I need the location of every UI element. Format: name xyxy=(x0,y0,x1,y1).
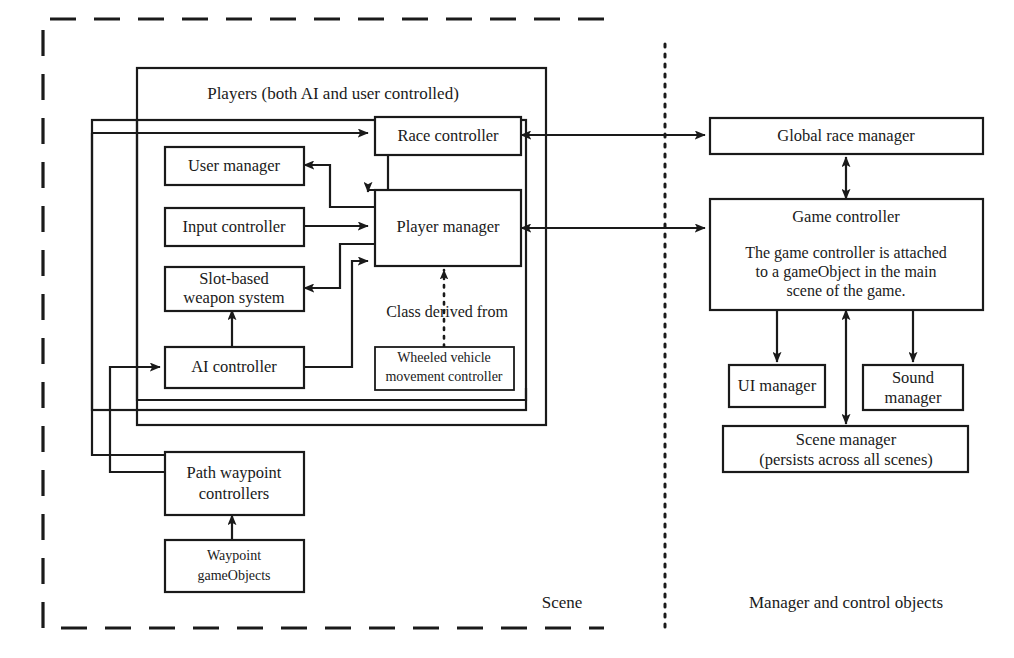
node-player-manager-label: Player manager xyxy=(396,217,500,236)
node-wheeled-vehicle-movement-controller[interactable]: Wheeled vehicle movement controller xyxy=(375,347,514,390)
node-ui-manager-label: UI manager xyxy=(738,376,817,395)
node-waypoint-gameobjects-label-line2: gameObjects xyxy=(197,568,270,583)
node-sound-manager-label-line2: manager xyxy=(885,388,942,407)
architecture-diagram: Race controller User manager Input contr… xyxy=(0,0,1014,658)
node-game-controller-note-line3: scene of the game. xyxy=(786,282,905,300)
node-path-waypoint-controllers[interactable]: Path waypoint controllers xyxy=(165,452,304,515)
node-ui-manager[interactable]: UI manager xyxy=(729,365,825,407)
scene-region-label: Scene xyxy=(542,593,583,612)
node-slot-weapon-label-line2: weapon system xyxy=(183,288,284,307)
edge-player-manager-to-user-manager xyxy=(304,165,375,207)
node-global-race-manager[interactable]: Global race manager xyxy=(710,118,983,154)
node-player-manager[interactable]: Player manager xyxy=(375,190,521,266)
players-group-label: Players (both AI and user controlled) xyxy=(207,84,459,103)
node-input-controller[interactable]: Input controller xyxy=(165,208,304,246)
node-sound-manager[interactable]: Sound manager xyxy=(863,365,963,410)
edge-waypoint-rail-left xyxy=(92,133,165,455)
node-game-controller-note-line2: to a gameObject in the main xyxy=(756,263,937,281)
managers-region-label: Manager and control objects xyxy=(749,593,943,612)
node-waypoint-gameobjects-label-line1: Waypoint xyxy=(207,548,261,563)
node-game-controller-title: Game controller xyxy=(792,207,900,226)
node-race-controller-label: Race controller xyxy=(397,126,499,145)
node-ai-controller[interactable]: AI controller xyxy=(165,347,304,388)
node-input-controller-label: Input controller xyxy=(182,217,286,236)
edge-ai-controller-to-player-manager xyxy=(300,261,368,367)
node-user-manager-label: User manager xyxy=(188,156,281,175)
node-wheeled-vehicle-label-line2: movement controller xyxy=(385,369,502,384)
node-path-waypoint-label-line1: Path waypoint xyxy=(187,463,282,482)
node-scene-manager-label-line2: (persists across all scenes) xyxy=(759,450,933,469)
node-game-controller[interactable]: Game controller The game controller is a… xyxy=(710,199,983,310)
edge-player-manager-to-slot-weapon xyxy=(304,244,375,288)
node-game-controller-note-line1: The game controller is attached xyxy=(745,244,947,262)
node-scene-manager[interactable]: Scene manager (persists across all scene… xyxy=(723,426,968,472)
node-slot-weapon-label-line1: Slot-based xyxy=(199,269,269,288)
edge-race-controller-to-player-manager xyxy=(368,155,388,192)
node-ai-controller-label: AI controller xyxy=(191,357,277,376)
node-path-waypoint-label-line2: controllers xyxy=(199,484,270,503)
node-waypoint-gameobjects[interactable]: Waypoint gameObjects xyxy=(165,540,304,592)
node-wheeled-vehicle-label-line1: Wheeled vehicle xyxy=(397,350,491,365)
node-global-race-manager-label: Global race manager xyxy=(777,126,915,145)
class-derived-from-annotation: Class derived from xyxy=(386,303,508,320)
node-slot-based-weapon-system[interactable]: Slot-based weapon system xyxy=(165,267,304,311)
node-sound-manager-label-line1: Sound xyxy=(892,368,935,387)
node-scene-manager-label-line1: Scene manager xyxy=(796,430,897,449)
node-user-manager[interactable]: User manager xyxy=(165,147,304,185)
diagram-canvas: Race controller User manager Input contr… xyxy=(0,0,1014,658)
scene-region-border xyxy=(43,19,604,628)
node-race-controller[interactable]: Race controller xyxy=(375,117,521,155)
